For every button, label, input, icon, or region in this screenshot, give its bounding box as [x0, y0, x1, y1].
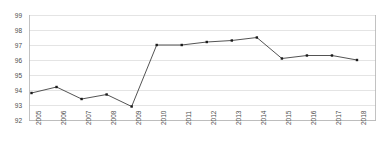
- data-line: [32, 38, 358, 107]
- x-tick-label: 2006: [60, 111, 67, 125]
- x-tick-label: 2012: [210, 111, 217, 125]
- y-tick-label: 99: [6, 12, 22, 19]
- y-tick-label: 96: [6, 57, 22, 64]
- y-tick-label: 94: [6, 87, 22, 94]
- data-point-marker: [105, 93, 107, 95]
- data-point-marker: [206, 41, 208, 43]
- x-tick-label: 2010: [160, 111, 167, 125]
- data-point-marker: [80, 98, 82, 100]
- x-tick-label: 2017: [335, 111, 342, 125]
- line-chart: 9293949596979899 20052006200720082009201…: [0, 0, 388, 159]
- data-point-marker: [30, 92, 32, 94]
- y-tick-label: 92: [6, 117, 22, 124]
- data-point-marker: [181, 44, 183, 46]
- x-tick-label: 2007: [85, 111, 92, 125]
- x-tick-label: 2008: [110, 111, 117, 125]
- y-tick-label: 95: [6, 72, 22, 79]
- data-point-marker: [55, 86, 57, 88]
- x-tick-label: 2009: [135, 111, 142, 125]
- data-point-marker: [281, 57, 283, 59]
- chart-plot-area: [0, 0, 388, 159]
- data-point-marker: [356, 59, 358, 61]
- data-point-marker: [231, 39, 233, 41]
- data-point-marker: [155, 44, 157, 46]
- x-tick-label: 2014: [260, 111, 267, 125]
- x-tick-label: 2011: [185, 111, 192, 125]
- data-point-marker: [331, 54, 333, 56]
- data-markers: [30, 36, 358, 107]
- gridlines: [29, 16, 376, 121]
- x-tick-label: 2005: [35, 111, 42, 125]
- x-tick-label: 2016: [310, 111, 317, 125]
- x-tick-label: 2015: [285, 111, 292, 125]
- y-tick-label: 93: [6, 102, 22, 109]
- y-tick-label: 97: [6, 42, 22, 49]
- x-tick-label: 2018: [360, 111, 367, 125]
- x-tick-label: 2013: [235, 111, 242, 125]
- data-point-marker: [130, 105, 132, 107]
- data-point-marker: [256, 36, 258, 38]
- data-point-marker: [306, 54, 308, 56]
- y-tick-label: 98: [6, 27, 22, 34]
